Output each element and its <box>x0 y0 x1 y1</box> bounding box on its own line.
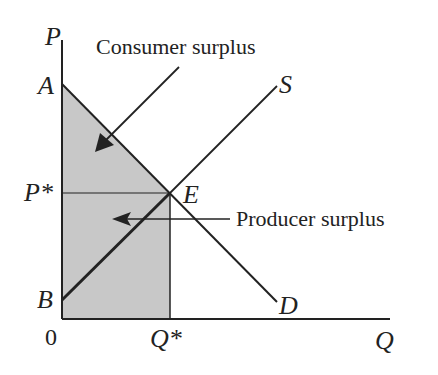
q-star-label: Q* <box>150 324 182 353</box>
consumer-surplus-label: Consumer surplus <box>96 34 256 59</box>
point-b-label: B <box>37 285 53 314</box>
point-e-label: E <box>182 180 199 209</box>
surplus-diagram: P A P* B 0 Q* Q E S D Consumer surplus P… <box>0 0 438 375</box>
producer-surplus-label: Producer surplus <box>236 206 384 231</box>
supply-label: S <box>279 70 292 99</box>
demand-label: D <box>278 291 298 320</box>
y-axis-label: P <box>44 22 61 51</box>
origin-label: 0 <box>45 324 57 350</box>
point-a-label: A <box>36 71 54 100</box>
p-star-label: P* <box>23 178 53 207</box>
supply-curve-upper <box>170 86 277 193</box>
consumer-surplus-arrow <box>102 67 179 144</box>
x-axis-label: Q <box>375 326 394 355</box>
